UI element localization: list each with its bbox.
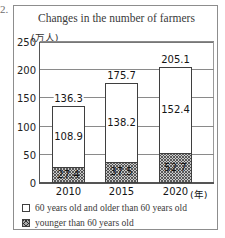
bar-segment-older-label-2010: 108.9 <box>54 132 83 142</box>
bar-segment-younger-label-2015: 37.5 <box>109 167 133 177</box>
bar-segment-older-2020[interactable]: 152.4 <box>159 67 192 154</box>
bar-segment-older-label-2015: 138.2 <box>107 118 136 128</box>
bar-group-2015[interactable]: 175.7 138.2 37.5 2015 <box>105 83 138 183</box>
bar-group-2010[interactable]: 136.3 108.9 27.4 2010 <box>52 106 85 183</box>
bar-segment-younger-2020[interactable]: 52.7 <box>159 153 192 183</box>
bar-segment-older-2015[interactable]: 138.2 <box>105 83 138 162</box>
xtick-label-2010: 2010 <box>56 186 81 197</box>
legend-item-older[interactable]: 60 years old and older than 60 years old <box>22 200 214 215</box>
bar-group-2020[interactable]: 205.1 152.4 52.7 2020 <box>159 67 192 183</box>
bar-segment-younger-label-2020: 52.7 <box>163 163 187 173</box>
bar-segment-younger-2010[interactable]: 27.4 <box>52 167 85 183</box>
bar-segment-older-2010[interactable]: 108.9 <box>52 106 85 168</box>
ytick-label-200: 200 <box>17 65 36 76</box>
bar-segment-younger-label-2010: 27.4 <box>56 170 80 180</box>
legend: 60 years old and older than 60 years old… <box>22 200 214 230</box>
ytick-label-250: 250 <box>17 37 36 48</box>
x-axis-unit-label: (年) <box>190 187 207 201</box>
xtick-label-2015: 2015 <box>109 186 134 197</box>
bar-total-label-2015: 175.7 <box>106 71 137 81</box>
chart-title: Changes in the number of farmers <box>14 12 219 24</box>
plot-top-border <box>40 42 214 43</box>
plot-area: 250 200 150 100 50 0 136.3 108.9 27.4 20… <box>39 42 214 184</box>
bar-segment-younger-2015[interactable]: 37.5 <box>105 162 138 183</box>
ytick-label-50: 50 <box>23 149 36 160</box>
bar-segment-older-label-2020: 152.4 <box>161 105 190 115</box>
ytick-label-100: 100 <box>17 121 36 132</box>
bar-total-label-2010: 136.3 <box>53 94 84 104</box>
hatched-square-icon <box>22 219 30 227</box>
legend-label-older: 60 years old and older than 60 years old <box>35 203 187 213</box>
open-square-icon <box>22 204 30 212</box>
item-number: 2. <box>0 3 8 15</box>
ytick-label-150: 150 <box>17 93 36 104</box>
legend-item-younger[interactable]: younger than 60 years old <box>22 215 214 230</box>
bar-total-label-2020: 205.1 <box>160 55 191 65</box>
ytick-label-0: 0 <box>30 178 36 189</box>
figure-box: Changes in the number of farmers (万人) 25… <box>13 5 218 230</box>
xtick-label-2020: 2020 <box>163 186 188 197</box>
gridline-250: 250 <box>40 41 214 42</box>
legend-label-younger: younger than 60 years old <box>35 218 134 228</box>
plot-right-border <box>213 42 214 183</box>
